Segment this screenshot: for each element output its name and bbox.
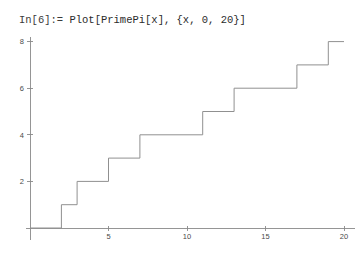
input-expression-text[interactable]: Plot[PrimePi[x], {x, 0, 20}] <box>69 14 245 26</box>
primepi-step-curve <box>30 42 344 228</box>
plot-svg-canvas: 51015202468 <box>0 28 361 268</box>
input-prompt-label: In[6]:= <box>19 14 63 26</box>
x-tick-label: 10 <box>183 232 191 241</box>
notebook-output-cell: In[6]:= Plot[PrimePi[x], {x, 0, 20}] 510… <box>0 0 361 268</box>
y-tick-label: 6 <box>20 84 24 93</box>
y-tick-label: 2 <box>20 177 24 186</box>
axes-group <box>26 37 355 240</box>
y-tick-label: 4 <box>20 131 24 140</box>
x-tick-label: 5 <box>106 232 110 241</box>
y-tick-label: 8 <box>20 37 24 46</box>
x-tick-label: 15 <box>261 232 269 241</box>
x-tick-label: 20 <box>340 232 348 241</box>
plot-graphics-output[interactable]: 51015202468 <box>0 28 361 268</box>
input-cell-line[interactable]: In[6]:= Plot[PrimePi[x], {x, 0, 20}] <box>19 14 246 27</box>
tick-labels-group: 51015202468 <box>20 37 348 241</box>
